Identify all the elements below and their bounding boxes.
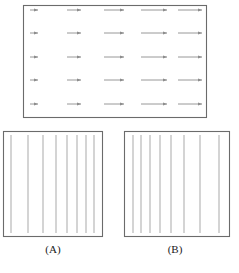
panel-a-streamlines xyxy=(4,132,103,237)
top-vector-field-panel xyxy=(24,6,207,118)
figure-canvas xyxy=(0,0,239,273)
panel-b-streamlines xyxy=(125,132,230,237)
panel-b-label: (B) xyxy=(140,243,210,255)
panel-a-border xyxy=(4,132,103,237)
figure-container: (A) (B) xyxy=(0,0,239,273)
top-panel-border xyxy=(24,6,207,118)
panel-b-border xyxy=(125,132,230,237)
panel-a-label: (A) xyxy=(18,243,88,255)
